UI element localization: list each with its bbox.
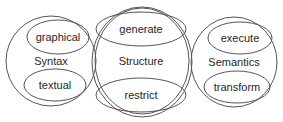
syntax-group: graphical Syntax textual (6, 16, 96, 106)
transform-label: transform (214, 81, 260, 93)
semantics-group: execute Semantics transform (191, 17, 277, 107)
graphical-label: graphical (36, 31, 81, 43)
textual-label: textual (39, 79, 71, 91)
structure-group: generate Structure restrict (92, 7, 192, 117)
syntax-label: Syntax (34, 55, 68, 67)
concept-diagram: graphical Syntax textual generate Struct… (0, 0, 283, 122)
structure-label: Structure (119, 55, 164, 67)
semantics-label: Semantics (208, 56, 260, 68)
restrict-label: restrict (125, 89, 158, 101)
execute-label: execute (221, 32, 260, 44)
generate-label: generate (119, 23, 162, 35)
